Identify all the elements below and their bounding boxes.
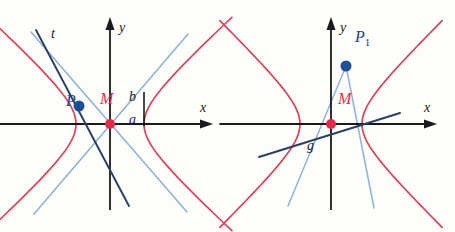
x-axis-arrow bbox=[424, 120, 437, 129]
y-axis-arrow bbox=[327, 17, 336, 30]
y-axis-label: y bbox=[117, 20, 126, 35]
tangent-line-panel: tbaxyP1M bbox=[0, 17, 232, 231]
tangent-line-t bbox=[36, 30, 129, 206]
chord-P1-right bbox=[346, 66, 374, 208]
secant-line-panel: gxyP1M bbox=[219, 17, 442, 227]
b-label: b bbox=[129, 89, 136, 104]
y-axis-arrow bbox=[106, 17, 115, 30]
point-p1-subscript: 1 bbox=[365, 36, 371, 48]
x-axis-arrow bbox=[200, 120, 213, 129]
x-axis-label: x bbox=[423, 100, 431, 115]
tangent-line-t-label: t bbox=[51, 26, 56, 41]
point-m bbox=[105, 119, 115, 129]
point-m-label: M bbox=[99, 90, 115, 107]
point-p1-subscript: 1 bbox=[76, 100, 82, 112]
point-p1 bbox=[341, 61, 352, 72]
point-p1-label: P1 bbox=[354, 28, 370, 48]
point-m-label: M bbox=[337, 90, 353, 107]
x-axis-label: x bbox=[199, 100, 207, 115]
secant-line-g-label: g bbox=[307, 138, 314, 153]
geometry-figure: tbaxyP1MgxyP1M bbox=[0, 0, 455, 232]
a-label: a bbox=[129, 112, 136, 127]
y-axis-label: y bbox=[338, 20, 347, 35]
figure-canvas: tbaxyP1MgxyP1M bbox=[0, 0, 455, 232]
point-m bbox=[326, 119, 336, 129]
